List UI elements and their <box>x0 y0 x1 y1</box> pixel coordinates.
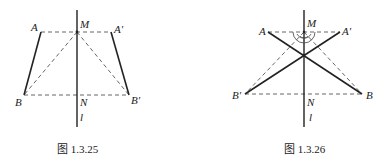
label-l: l <box>309 111 312 123</box>
label-m: M <box>79 18 90 30</box>
geometry-figures: A A' M B B' N l 图 1.3.25 A A' M B' B N l… <box>0 0 392 161</box>
label-m: M <box>306 17 317 29</box>
figure-1-3-25: A A' M B B' N l 图 1.3.25 <box>15 10 141 155</box>
dashed-segment-m-b <box>304 32 362 94</box>
dashed-segment-m-b-prime <box>77 32 129 95</box>
point-intersection <box>303 54 306 57</box>
segment-a-prime-b-prime <box>245 32 340 94</box>
label-n: N <box>306 96 315 108</box>
segment-a-b <box>24 32 41 95</box>
segment-a-b <box>268 32 362 94</box>
dashed-segment-m-b-prime <box>245 32 304 94</box>
label-b-prime: B' <box>131 94 141 106</box>
caption-fig-1-3-26: 图 1.3.26 <box>284 143 326 155</box>
label-b: B <box>15 96 22 108</box>
segment-a-prime-b-prime <box>111 32 129 95</box>
label-a: A <box>30 21 38 33</box>
point-m <box>303 31 306 34</box>
label-a: A <box>258 25 266 37</box>
label-l: l <box>80 111 83 123</box>
caption-fig-1-3-25: 图 1.3.25 <box>57 143 99 155</box>
point-m <box>76 31 79 34</box>
label-b: B <box>366 89 373 101</box>
label-a-prime: A' <box>341 25 352 37</box>
label-n: N <box>79 96 88 108</box>
figure-1-3-26: A A' M B' B N l 图 1.3.26 <box>232 10 373 155</box>
label-b-prime: B' <box>232 89 242 101</box>
label-a-prime: A' <box>113 23 124 35</box>
